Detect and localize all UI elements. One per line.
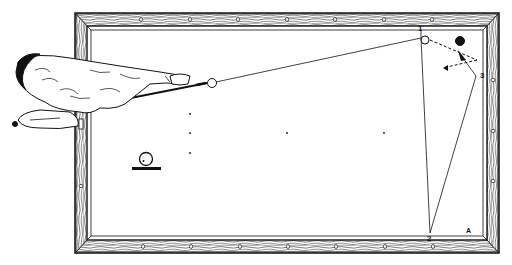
- object-ball-white: [421, 36, 429, 44]
- label-point-1: 1: [418, 24, 423, 33]
- label-point-2: 2: [427, 234, 432, 243]
- label-corner-a: A: [466, 227, 471, 234]
- cue-ball: [208, 79, 217, 88]
- rail-marker: [79, 119, 83, 129]
- object-ball-red: [456, 37, 465, 46]
- label-point-3: 3: [480, 71, 485, 80]
- billiards-diagram: 1 2 3 A: [0, 0, 512, 265]
